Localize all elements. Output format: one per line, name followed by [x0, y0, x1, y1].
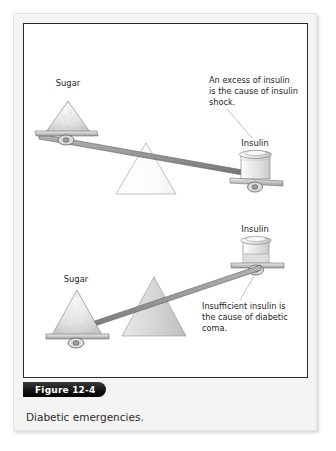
balance-scales-illustration: An excess of insulin is the cause of ins… [24, 24, 307, 377]
pan-wheel-upper-left [58, 135, 74, 145]
annotation-line-1: An excess of insulin [209, 75, 290, 85]
figure-panel: An excess of insulin is the cause of ins… [13, 13, 317, 431]
figure-number-badge: Figure 12-4 [23, 382, 106, 397]
annotation-line-3: shock. [209, 97, 235, 107]
insulin-jar-lid-lower [241, 237, 271, 245]
insulin-fluid-lower [244, 254, 269, 263]
sugar-pile-lower [52, 290, 102, 335]
annotation-diabetic-coma: Insufficient insulin is the cause of dia… [202, 301, 288, 333]
insulin-label-lower: Insulin [241, 224, 268, 234]
annotation-insulin-shock: An excess of insulin is the cause of ins… [209, 75, 298, 107]
leader-line-insulin-shock [227, 109, 252, 138]
figure-page: An excess of insulin is the cause of ins… [0, 0, 336, 451]
sugar-label-lower: Sugar [64, 274, 89, 284]
scale-diabetic-coma: Insulin [46, 224, 288, 348]
annotation-line-1: Insufficient insulin is [202, 301, 286, 311]
annotation-line-2: is the cause of insulin [209, 86, 298, 96]
pan-wheel-upper-right [248, 182, 263, 192]
sugar-label-upper: Sugar [56, 78, 81, 88]
insulin-pan-upper: Insulin [230, 138, 283, 192]
figure-frame: An excess of insulin is the cause of ins… [23, 23, 308, 378]
figure-number-label: Figure 12-4 [35, 385, 95, 395]
annotation-line-3: coma. [202, 323, 227, 333]
scale-insulin-shock: An excess of insulin is the cause of ins… [35, 75, 298, 194]
fulcrum-lower [122, 277, 186, 336]
figure-caption: Diabetic emergencies. [26, 410, 301, 424]
sugar-pan-lower: Sugar [46, 274, 109, 348]
insulin-label-upper: Insulin [241, 138, 268, 148]
insulin-jar-lid-upper [240, 150, 272, 158]
pan-wheel-lower-left [68, 338, 84, 348]
leader-line-diabetic-coma [240, 276, 254, 300]
annotation-line-2: the cause of diabetic [202, 312, 288, 322]
